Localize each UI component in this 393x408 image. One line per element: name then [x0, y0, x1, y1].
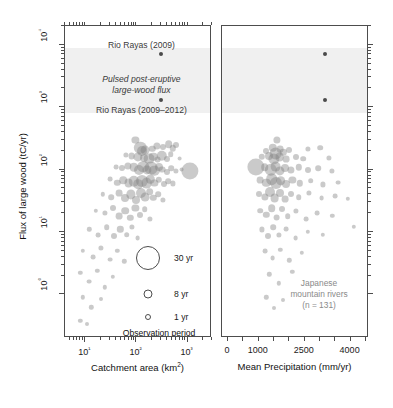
data-bubble	[299, 251, 303, 255]
tick-mark	[61, 178, 64, 179]
data-bubble	[126, 190, 135, 199]
data-bubble	[132, 205, 139, 212]
data-bubble	[124, 162, 131, 169]
annotation-italic-2: large-wood flux	[112, 85, 170, 95]
data-bubble	[141, 178, 152, 189]
y-tick-label: 10⁴	[37, 29, 49, 59]
legend-title: Observation period	[123, 328, 196, 337]
tick-mark	[368, 53, 371, 54]
tick-mark	[202, 22, 203, 25]
annotation-rio-rayas-2009: Rio Rayas (2009)	[108, 40, 175, 50]
tick-mark	[128, 337, 129, 340]
tick-mark	[61, 171, 64, 172]
data-bubble	[137, 161, 149, 173]
data-bubble	[121, 207, 129, 215]
tick-mark	[365, 337, 366, 341]
tick-mark	[61, 256, 64, 257]
tick-mark	[368, 109, 371, 110]
data-bubble	[268, 143, 276, 151]
tick-mark	[368, 125, 371, 126]
data-bubble	[115, 190, 122, 197]
data-bubble	[161, 181, 167, 187]
tick-mark	[59, 106, 64, 107]
tick-mark	[368, 293, 373, 294]
data-bubble	[147, 217, 152, 222]
tick-mark	[273, 337, 274, 341]
tick-mark	[368, 112, 371, 113]
data-bubble	[165, 140, 173, 148]
tick-mark	[135, 337, 136, 342]
data-bubble	[261, 194, 268, 201]
data-bubble	[159, 166, 166, 173]
data-bubble	[132, 136, 139, 143]
data-bubble	[96, 232, 101, 237]
data-bubble	[156, 151, 166, 161]
data-bubble	[283, 156, 290, 163]
data-bubble	[166, 178, 172, 184]
data-bubble	[281, 195, 288, 202]
data-bubble	[327, 155, 332, 160]
data-bubble	[137, 212, 143, 218]
data-bubble	[114, 165, 119, 170]
tick-mark	[61, 237, 64, 238]
data-bubble	[268, 153, 279, 164]
tick-mark	[61, 125, 64, 126]
data-bubble	[270, 256, 275, 261]
data-bubble	[99, 297, 103, 301]
data-bubble	[170, 145, 176, 151]
data-bubble	[164, 169, 170, 175]
tick-mark	[61, 63, 64, 64]
tick-mark	[187, 22, 188, 25]
data-bubble	[305, 167, 311, 173]
tick-mark	[61, 139, 64, 140]
tick-mark	[84, 22, 85, 25]
data-bubble	[272, 306, 276, 310]
data-bubble	[285, 213, 291, 219]
data-bubble	[281, 164, 289, 172]
data-bubble	[316, 165, 322, 171]
tick-mark	[61, 150, 64, 151]
data-bubble	[128, 176, 138, 186]
tick-mark	[334, 337, 335, 341]
tick-mark	[368, 139, 371, 140]
figure-root: Flux of large wood (tC/yr) 10⁰10¹10²10³1…	[0, 0, 393, 408]
tick-mark	[61, 201, 64, 202]
tick-mark	[368, 241, 371, 242]
note-line-1: Japanese	[301, 278, 337, 288]
tick-mark	[135, 22, 136, 25]
tick-mark	[368, 264, 371, 265]
tick-mark	[61, 234, 64, 235]
x-tick-label-right: 0	[225, 345, 230, 355]
panel-note-japanese-rivers: Japanese mountain rivers (n = 131)	[290, 278, 347, 311]
data-bubble	[308, 178, 314, 184]
data-bubble	[265, 163, 277, 175]
data-bubble	[181, 162, 198, 179]
data-bubble	[315, 211, 320, 216]
x-tick-label-left: 10³	[181, 345, 193, 357]
tick-mark	[184, 337, 185, 340]
tick-mark	[61, 76, 64, 77]
data-bubble	[266, 173, 278, 185]
legend-label-30yr: 30 yr	[174, 253, 193, 263]
tick-mark	[100, 22, 101, 25]
data-bubble	[90, 254, 95, 259]
data-bubble	[108, 194, 114, 200]
data-bubble	[288, 191, 294, 197]
tick-mark	[368, 131, 371, 132]
tick-mark	[59, 44, 64, 45]
tick-mark	[368, 169, 373, 170]
data-bubble	[124, 179, 133, 188]
annotation-rio-rayas-2009-2012: Rio Rayas (2009–2012)	[96, 105, 187, 115]
data-bubble	[286, 147, 292, 153]
data-bubble	[85, 322, 89, 326]
x-axis-title-left: Catchment area (km2)	[64, 361, 211, 373]
tick-mark	[100, 337, 101, 340]
tick-mark	[368, 44, 373, 45]
tick-mark	[151, 22, 152, 25]
data-bubble	[141, 146, 150, 155]
tick-mark	[171, 337, 172, 340]
data-bubble	[146, 175, 154, 183]
data-bubble	[259, 227, 264, 232]
tick-mark	[82, 22, 83, 25]
tick-mark	[131, 22, 132, 25]
